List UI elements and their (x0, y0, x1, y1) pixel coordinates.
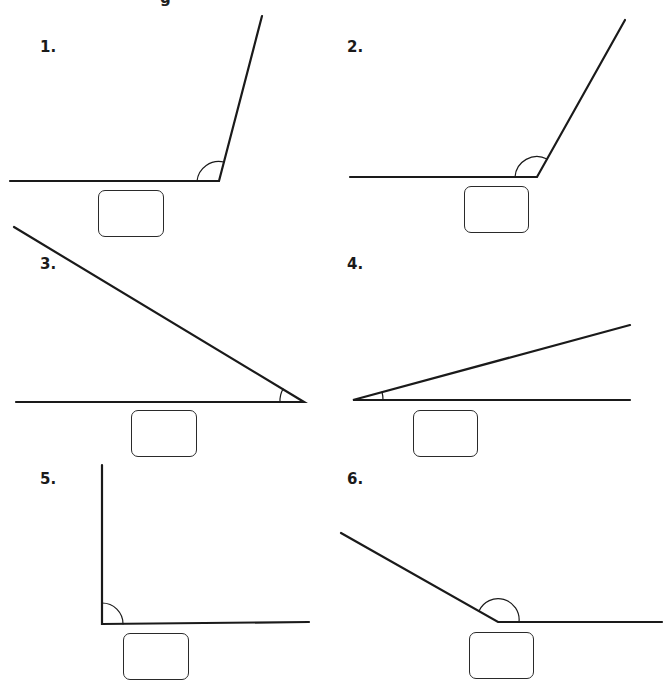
problem-3-number: 3. (40, 255, 56, 273)
angle-3 (14, 227, 304, 402)
problem-5-number: 5. (40, 470, 56, 488)
problem-4-number: 4. (347, 255, 363, 273)
angle-5 (102, 465, 309, 624)
angle-6 (341, 533, 662, 622)
answer-box-2[interactable] (464, 186, 529, 233)
answer-box-5[interactable] (123, 633, 189, 680)
answer-box-6[interactable] (469, 632, 534, 679)
problem-6-number: 6. (347, 470, 363, 488)
answer-box-4[interactable] (413, 410, 478, 457)
angle-diagrams (0, 0, 670, 692)
problem-1-number: 1. (40, 38, 56, 56)
angle-4 (353, 325, 630, 400)
problem-2-number: 2. (347, 38, 363, 56)
answer-box-1[interactable] (98, 190, 164, 237)
angle-worksheet: g (0, 0, 670, 692)
angle-2 (350, 20, 625, 177)
answer-box-3[interactable] (131, 410, 197, 457)
